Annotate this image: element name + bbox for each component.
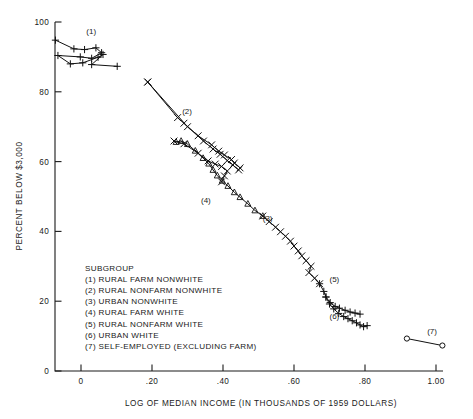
data-point-marker [212, 161, 219, 168]
data-point-marker [67, 60, 74, 67]
data-point-marker [184, 123, 191, 130]
series-callout-s7: (7) [427, 327, 437, 336]
data-point-marker [235, 167, 242, 174]
data-point-marker [356, 311, 363, 318]
series-s2b [144, 79, 242, 174]
y-axis-title: PERCENT BELOW $3,000 [15, 141, 24, 250]
data-point-marker [114, 63, 121, 70]
data-point-marker [81, 46, 88, 53]
legend-entry: (2) RURAL NONFARM NONWHITE [85, 286, 223, 295]
series-path [148, 82, 240, 168]
series-callout-s1: (1) [86, 27, 96, 36]
legend-title: SUBGROUP [85, 264, 134, 273]
series-callout-s3: (3) [263, 214, 273, 223]
series-callout-s2: (2) [182, 107, 192, 116]
data-point-marker [404, 336, 409, 341]
y-tick-label: 100 [34, 18, 49, 27]
x-tick-label: .80 [359, 377, 371, 386]
series-callout-s4: (4) [201, 196, 211, 205]
figure-root: 0.20.40.60.801.00020406080100 (1)(2)(4)(… [0, 0, 473, 419]
series-callout-s6: (6) [330, 312, 340, 321]
series-s3 [259, 213, 323, 288]
data-point-marker [351, 309, 358, 316]
x-tick-label: .40 [217, 377, 229, 386]
series-path [148, 82, 239, 170]
series-s1 [52, 37, 121, 70]
y-tick-label: 40 [39, 227, 49, 236]
series-s7 [404, 336, 445, 348]
series-callout-s5: (5) [330, 275, 340, 284]
legend: SUBGROUP(1) RURAL FARM NONWHITE(2) RURAL… [85, 264, 257, 351]
data-point-marker [218, 163, 225, 170]
data-point-marker [52, 37, 59, 44]
legend-entry: (1) RURAL FARM NONWHITE [85, 275, 204, 284]
x-tick-label: .60 [288, 377, 300, 386]
data-point-marker [287, 238, 294, 245]
legend-entry: (6) URBAN WHITE [85, 331, 159, 340]
x-tick-label: 0 [79, 377, 84, 386]
data-point-marker [364, 322, 371, 329]
scatter-plot: 0.20.40.60.801.00020406080100 (1)(2)(4)(… [0, 0, 473, 419]
y-tick-label: 0 [44, 367, 49, 376]
data-point-marker [295, 248, 302, 255]
data-point-marker [440, 343, 445, 348]
data-point-marker [144, 79, 151, 86]
y-tick-label: 80 [39, 88, 49, 97]
series-path [263, 216, 320, 284]
series-path [407, 339, 443, 346]
legend-entry: (4) RURAL FARM WHITE [85, 308, 185, 317]
series-s5 [316, 280, 364, 318]
data-point-marker [70, 45, 77, 52]
legend-entry: (5) RURAL NONFARM WHITE [85, 320, 204, 329]
legend-entry: (7) SELF-EMPLOYED (EXCLUDING FARM) [85, 342, 257, 351]
legend-entry: (3) URBAN NONWHITE [85, 297, 178, 306]
y-tick-label: 60 [39, 158, 49, 167]
data-point-marker [308, 263, 315, 270]
data-point-marker [230, 162, 237, 169]
data-point-marker [360, 323, 367, 330]
y-tick-label: 20 [39, 297, 49, 306]
data-point-marker [346, 308, 353, 315]
x-axis-title: LOG OF MEDIAN INCOME (IN THOUSANDS OF 19… [125, 399, 397, 408]
x-tick-label: .20 [146, 377, 158, 386]
series-s2 [144, 79, 243, 172]
x-tick-label: 1.00 [427, 377, 444, 386]
